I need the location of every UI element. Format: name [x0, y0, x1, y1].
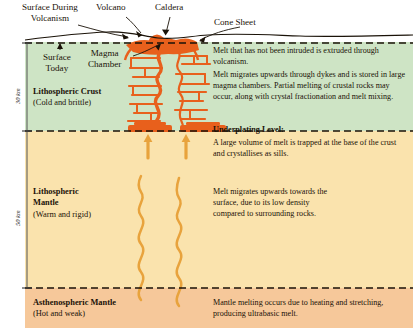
layer-qualifier-asthenospheric-mantle: (Hot and weak) [33, 309, 85, 318]
callout-cone-sheet: Cone Sheet [214, 17, 256, 28]
leader-surface-during-volcanism [78, 25, 128, 37]
layer-name-asthenospheric-mantle: Asthenospheric Mantle [33, 298, 116, 307]
layer-qualifier-lithospheric-mantle: (Warm and rigid) [33, 210, 91, 219]
ground-surface-line [25, 32, 413, 40]
leader-caldera [166, 17, 170, 33]
note-asthenosphere-melting: Mantle melting occurs due to heating and… [213, 297, 405, 319]
layer-name-lithospheric-mantle: Lithospheric [33, 187, 79, 196]
note-dykes: Melt migrates upwards through dykes and … [213, 69, 409, 102]
note-melt-migration: Melt migrates upwards towards the surfac… [213, 186, 333, 219]
leader-volcano [126, 17, 141, 33]
leader-cone-sheet [200, 27, 240, 40]
depth-scale-label-crust: 30 km [14, 88, 21, 104]
layer-qualifier-crust: (Cold and brittle) [33, 98, 91, 107]
arrowhead-caldera [162, 30, 169, 36]
callout-surface-today: SurfaceToday [43, 52, 71, 73]
layer-caption-asthenospheric-mantle: Asthenospheric Mantle (Hot and weak) [33, 297, 116, 320]
diagram-canvas: 30 km 50 km Lithospheric Crust (Cold and… [0, 0, 415, 331]
arrowhead-surface-during-volcanism [122, 34, 129, 40]
note-underplating: A large volume of melt is trapped at the… [213, 137, 409, 159]
callout-caldera: Caldera [155, 2, 183, 13]
callout-surface-during-volcanism: Surface DuringVolcanism [22, 2, 78, 23]
layer-caption-lithospheric-mantle: Lithospheric Mantle (Warm and rigid) [33, 186, 91, 220]
layer-name-lithospheric-mantle-2: Mantle [33, 198, 59, 207]
arrowhead-volcano [136, 31, 143, 38]
note-extrusion: Melt that has not been intruded is extru… [213, 45, 409, 67]
note-underplating-heading: Underplating Level: [213, 124, 409, 135]
layer-name-crust: Lithospheric Crust [33, 87, 101, 96]
callout-volcano: Volcano [96, 2, 126, 13]
depth-scale-label-mantle: 50 km [14, 210, 21, 226]
layer-caption-crust: Lithospheric Crust (Cold and brittle) [33, 86, 101, 109]
callout-magma-chamber: MagmaChamber [88, 48, 121, 69]
